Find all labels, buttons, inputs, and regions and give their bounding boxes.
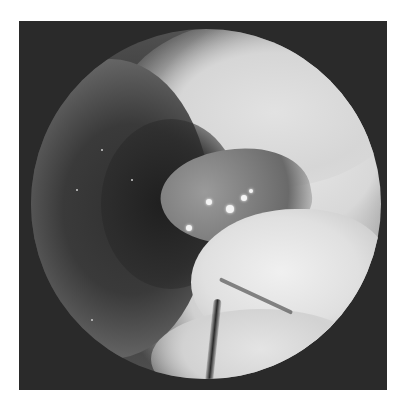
light-reflection xyxy=(226,205,234,213)
light-reflection xyxy=(186,225,192,231)
light-reflection xyxy=(241,195,247,201)
light-reflection xyxy=(206,199,212,205)
speck xyxy=(76,189,78,191)
image-frame xyxy=(19,21,387,390)
speck xyxy=(131,179,133,181)
speck xyxy=(91,319,93,321)
light-reflection xyxy=(249,189,253,193)
endoscope-field-of-view xyxy=(31,29,381,379)
speck xyxy=(101,149,103,151)
